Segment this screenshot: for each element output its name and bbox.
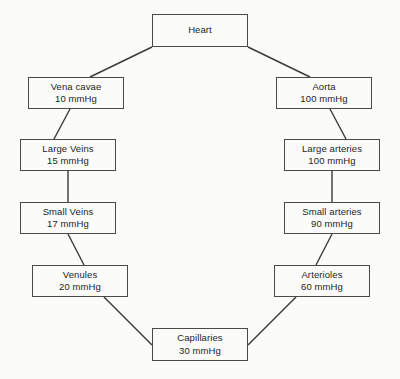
connector-heart-to-aorta <box>248 47 310 77</box>
node-vena-cavae[interactable]: Vena cavae10 mmHg <box>28 77 124 109</box>
node-label-small-veins: Small Veins <box>43 206 94 219</box>
node-label-venules: Venules <box>63 269 98 282</box>
node-pressure-small-arteries: 90 mmHg <box>311 218 353 231</box>
node-label-heart: Heart <box>188 24 212 37</box>
connector-aorta-to-large-arteries <box>330 109 346 139</box>
node-label-capillaries: Capillaries <box>177 332 222 345</box>
node-pressure-venules: 20 mmHg <box>59 281 101 294</box>
node-capillaries[interactable]: Capillaries30 mmHg <box>152 328 248 361</box>
connector-vena-cavae-to-heart <box>90 47 152 77</box>
node-pressure-vena-cavae: 10 mmHg <box>55 93 97 106</box>
node-aorta[interactable]: Aorta100 mmHg <box>276 77 372 109</box>
node-pressure-large-veins: 15 mmHg <box>47 155 89 168</box>
node-heart[interactable]: Heart <box>152 14 248 47</box>
connector-capillaries-to-venules <box>104 297 152 345</box>
node-label-large-arteries: Large arteries <box>302 143 362 156</box>
node-pressure-arterioles: 60 mmHg <box>301 281 343 294</box>
node-venules[interactable]: Venules20 mmHg <box>32 265 128 297</box>
node-small-veins[interactable]: Small Veins17 mmHg <box>20 202 116 234</box>
node-pressure-aorta: 100 mmHg <box>300 93 347 106</box>
diagram-canvas: HeartAorta100 mmHgLarge arteries100 mmHg… <box>0 0 400 379</box>
node-label-arterioles: Arterioles <box>301 269 342 282</box>
node-label-aorta: Aorta <box>312 81 335 94</box>
connector-venules-to-small-veins <box>68 234 84 265</box>
node-pressure-capillaries: 30 mmHg <box>179 345 221 358</box>
connector-small-arteries-to-arterioles <box>316 234 332 265</box>
node-pressure-small-veins: 17 mmHg <box>47 218 89 231</box>
node-label-large-veins: Large Veins <box>42 143 93 156</box>
connector-large-veins-to-vena-cavae <box>54 109 70 139</box>
node-pressure-large-arteries: 100 mmHg <box>308 155 355 168</box>
node-label-small-arteries: Small arteries <box>302 206 361 219</box>
node-label-vena-cavae: Vena cavae <box>51 81 102 94</box>
node-small-arteries[interactable]: Small arteries90 mmHg <box>284 202 380 234</box>
connector-arterioles-to-capillaries <box>248 297 296 345</box>
node-large-arteries[interactable]: Large arteries100 mmHg <box>284 139 380 171</box>
node-arterioles[interactable]: Arterioles60 mmHg <box>274 265 370 297</box>
node-large-veins[interactable]: Large Veins15 mmHg <box>20 139 116 171</box>
connector-lines <box>0 0 400 379</box>
